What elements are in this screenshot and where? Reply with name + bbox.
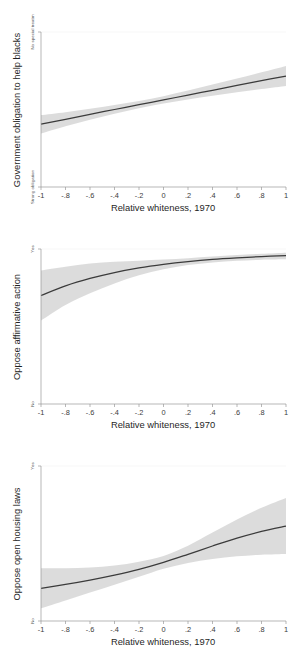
panel-2-x-tick-label: .2 — [185, 625, 191, 634]
panel-2-x-tick-label: .8 — [258, 625, 264, 634]
panel-2-y-tick-label: No — [30, 618, 35, 624]
panel-1-x-ticks — [41, 404, 286, 407]
panel-1-x-tick-label: .6 — [234, 408, 240, 417]
panel-0-x-tick-label: .6 — [234, 191, 240, 200]
panel-1-confidence-band — [41, 253, 286, 321]
panel-0-y-tick-labels: Strong obligationNo special treatm — [30, 14, 35, 204]
panel-1-plot: -1-.8-.6-.4-.20.2.4.6.81 NoYes Relative … — [0, 217, 302, 434]
panel-0-x-axis-title: Relative whiteness, 1970 — [111, 202, 215, 213]
panel-0-x-tick-label: 1 — [284, 191, 288, 200]
panel-1-y-tick-label: No — [30, 401, 35, 407]
panel-2-x-tick-label: -.2 — [135, 625, 144, 634]
panel-oppose-affirmative-action: -1-.8-.6-.4-.20.2.4.6.81 NoYes Relative … — [0, 217, 302, 434]
panel-oppose-open-housing-laws: -1-.8-.6-.4-.20.2.4.6.81 NoYes Relative … — [0, 434, 302, 651]
panel-1-x-tick-label: 1 — [284, 408, 288, 417]
panel-1-x-tick-labels: -1-.8-.6-.4-.20.2.4.6.81 — [38, 408, 288, 417]
panel-0-x-tick-label: -.6 — [86, 191, 95, 200]
panel-2-x-tick-label: .6 — [234, 625, 240, 634]
panel-0-x-ticks — [41, 187, 286, 190]
panel-2-x-ticks — [41, 621, 286, 624]
panel-2-x-axis-title: Relative whiteness, 1970 — [111, 636, 215, 647]
panel-2-y-tick-labels: NoYes — [30, 462, 35, 624]
panel-government-obligation: -1-.8-.6-.4-.20.2.4.6.81 Strong obligati… — [0, 0, 302, 217]
panel-1-x-tick-label: -1 — [38, 408, 45, 417]
panel-1-x-tick-label: -.8 — [61, 408, 70, 417]
panel-0-x-tick-labels: -1-.8-.6-.4-.20.2.4.6.81 — [38, 191, 288, 200]
panel-2-x-tick-label: 0 — [161, 625, 165, 634]
panel-2-x-tick-label: 1 — [284, 625, 288, 634]
panel-1-x-tick-label: .4 — [209, 408, 215, 417]
panel-0-x-tick-label: -.2 — [135, 191, 144, 200]
panel-0-y-tick-label: No special treatm — [30, 14, 35, 49]
panel-0-x-tick-label: -.4 — [110, 191, 119, 200]
panel-1-y-tick-labels: NoYes — [30, 245, 35, 407]
panel-1-y-tick-label: Yes — [30, 245, 35, 252]
panel-0-axes — [41, 32, 286, 187]
panel-0-x-tick-label: -1 — [38, 191, 45, 200]
panel-1-y-ticks — [38, 249, 41, 404]
panel-1-x-tick-label: 0 — [161, 408, 165, 417]
panel-0-plot: -1-.8-.6-.4-.20.2.4.6.81 Strong obligati… — [0, 0, 302, 217]
panel-1-x-axis-title: Relative whiteness, 1970 — [111, 419, 215, 430]
panel-1-x-tick-label: -.2 — [135, 408, 144, 417]
panel-2-y-ticks — [38, 466, 41, 621]
panel-2-x-tick-label: -1 — [38, 625, 45, 634]
panel-1-x-tick-label: -.6 — [86, 408, 95, 417]
panel-0-x-tick-label: .8 — [258, 191, 264, 200]
panel-2-x-tick-label: -.8 — [61, 625, 70, 634]
panel-2-y-tick-label: Yes — [30, 462, 35, 469]
panel-2-x-tick-labels: -1-.8-.6-.4-.20.2.4.6.81 — [38, 625, 288, 634]
panel-2-confidence-band — [41, 498, 286, 608]
panel-0-y-axis-title: Government obligation to help blacks — [11, 33, 22, 188]
panel-2-plot: -1-.8-.6-.4-.20.2.4.6.81 NoYes Relative … — [0, 434, 302, 651]
panel-0-x-tick-label: .2 — [185, 191, 191, 200]
panel-2-x-tick-label: -.6 — [86, 625, 95, 634]
panel-0-x-tick-label: .4 — [209, 191, 215, 200]
panel-1-x-tick-label: .2 — [185, 408, 191, 417]
panel-2-x-tick-label: -.4 — [110, 625, 119, 634]
panel-0-x-tick-label: 0 — [161, 191, 165, 200]
panel-0-x-tick-label: -.8 — [61, 191, 70, 200]
panel-1-x-tick-label: .8 — [258, 408, 264, 417]
panel-0-y-tick-label: Strong obligation — [30, 170, 35, 204]
panel-0-fit-line — [41, 76, 286, 124]
panel-0-y-ticks — [38, 32, 41, 187]
panel-1-y-axis-title: Oppose affirmative action — [11, 274, 22, 380]
panel-2-y-axis-title: Oppose open housing laws — [11, 487, 22, 600]
panel-1-x-tick-label: -.4 — [110, 408, 119, 417]
panel-2-x-tick-label: .4 — [209, 625, 215, 634]
three-panel-regression-figure: -1-.8-.6-.4-.20.2.4.6.81 Strong obligati… — [0, 0, 302, 652]
